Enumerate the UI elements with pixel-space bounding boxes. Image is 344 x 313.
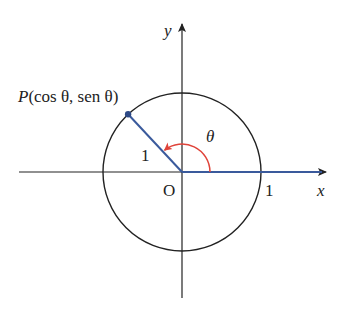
point-p-name: P	[17, 87, 28, 106]
y-axis-label: y	[162, 21, 172, 40]
terminal-side-radius	[128, 114, 182, 172]
point-p-label: P(cos θ, sen θ)	[17, 87, 118, 106]
angle-theta-arc	[165, 144, 210, 172]
x-axis-label: x	[316, 181, 325, 200]
origin-label: O	[163, 181, 175, 200]
unit-circle-diagram: y x O 1 1 θ P(cos θ, sen θ)	[0, 0, 344, 313]
point-p-coordinates: (cos θ, sen θ)	[28, 87, 118, 106]
point-p-marker	[125, 111, 131, 117]
angle-theta-label: θ	[206, 127, 214, 146]
radius-label: 1	[141, 146, 150, 165]
x-intercept-label: 1	[265, 181, 274, 200]
